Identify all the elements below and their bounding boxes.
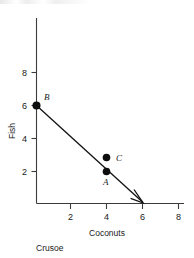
data-point-b bbox=[33, 102, 41, 110]
data-points-group: B C A bbox=[33, 92, 124, 187]
axes-group bbox=[37, 18, 185, 204]
production-possibility-frontier-chart: 2 4 6 8 2 4 6 8 Coconuts Fish B C bbox=[0, 0, 194, 258]
frontier-line-segment bbox=[37, 106, 143, 203]
x-tick-label-4: 4 bbox=[104, 212, 109, 222]
chart-figure: 2 4 6 8 2 4 6 8 Coconuts Fish B C bbox=[0, 0, 194, 258]
chart-caption: Crusoe bbox=[36, 243, 64, 253]
y-tick-label-4: 4 bbox=[22, 134, 27, 144]
data-point-label-c: C bbox=[116, 153, 123, 163]
y-tick-label-8: 8 bbox=[22, 68, 27, 78]
y-tick-label-6: 6 bbox=[22, 101, 27, 111]
frontier-series bbox=[37, 106, 144, 204]
y-axis-title: Fish bbox=[7, 123, 17, 139]
data-point-a bbox=[103, 168, 111, 176]
x-axis-title: Coconuts bbox=[89, 228, 125, 238]
x-axis-tick-labels: 2 4 6 8 bbox=[68, 212, 181, 222]
x-tick-label-2: 2 bbox=[68, 212, 73, 222]
y-tick-label-2: 2 bbox=[22, 167, 27, 177]
x-axis-ticks bbox=[71, 204, 179, 210]
data-point-c bbox=[103, 154, 111, 162]
data-point-label-b: B bbox=[44, 92, 50, 102]
x-tick-label-6: 6 bbox=[140, 212, 145, 222]
y-axis-ticks bbox=[32, 73, 37, 172]
x-tick-label-8: 8 bbox=[176, 212, 181, 222]
data-point-label-a: A bbox=[102, 177, 109, 187]
y-axis-tick-labels: 2 4 6 8 bbox=[22, 68, 27, 177]
